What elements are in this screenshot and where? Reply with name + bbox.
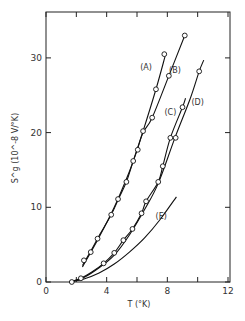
y-axis-tick-labels: 0102030 (31, 53, 43, 287)
y-tick-label: 20 (31, 128, 43, 138)
data-point-marker (144, 199, 149, 204)
chart: 04812 0102030 T (°K) S^g (10^-8 V/°K) (A… (0, 0, 245, 321)
data-point-marker (101, 261, 106, 266)
data-point-marker (95, 236, 100, 241)
curve-label-a: (A) (140, 63, 152, 72)
data-point-marker (124, 180, 129, 185)
curve-a (82, 56, 165, 265)
data-point-marker (173, 135, 178, 140)
curve-label-d: (D) (191, 98, 203, 107)
data-point-marker (121, 238, 126, 243)
data-point-marker (160, 164, 165, 169)
x-tick-label: 8 (164, 286, 170, 296)
data-point-marker (131, 159, 136, 164)
data-point-marker (116, 197, 121, 202)
data-point-marker (139, 211, 144, 216)
x-tick-label: 0 (43, 286, 49, 296)
y-tick-label: 0 (36, 277, 42, 287)
y-tick-label: 30 (31, 53, 43, 63)
x-tick-label: 12 (222, 286, 233, 296)
data-point-marker (112, 250, 117, 255)
x-axis-title: T (°K) (127, 300, 151, 309)
data-point-marker (78, 276, 83, 281)
curve-label-c: (C) (164, 108, 176, 117)
y-tick-label: 10 (31, 202, 43, 212)
data-point-marker (88, 250, 93, 255)
curve-c (70, 98, 185, 282)
data-point-marker (197, 69, 202, 74)
x-axis-tick-labels: 04812 (43, 286, 234, 296)
data-point-marker (69, 280, 74, 285)
data-point-marker (135, 147, 140, 152)
data-point-marker (156, 180, 161, 185)
curve-label-e: (E) (156, 212, 167, 221)
data-curves (70, 35, 203, 282)
y-axis-ticks (46, 58, 230, 282)
data-point-marker (150, 115, 155, 120)
curve-label-b: (B) (169, 66, 181, 75)
data-point-marker (162, 52, 167, 57)
data-point-marker (154, 87, 159, 92)
x-axis-ticks (46, 12, 228, 282)
data-point-marker (141, 129, 146, 134)
data-point-marker (109, 212, 114, 217)
data-point-marker (180, 105, 185, 110)
data-point-marker (130, 227, 135, 232)
data-point-marker (182, 33, 187, 38)
curve-d (70, 60, 203, 282)
x-tick-label: 4 (104, 286, 110, 296)
data-point-marker (168, 135, 173, 140)
y-axis-title: S^g (10^-8 V/°K) (11, 113, 20, 183)
data-point-marker (82, 258, 87, 263)
